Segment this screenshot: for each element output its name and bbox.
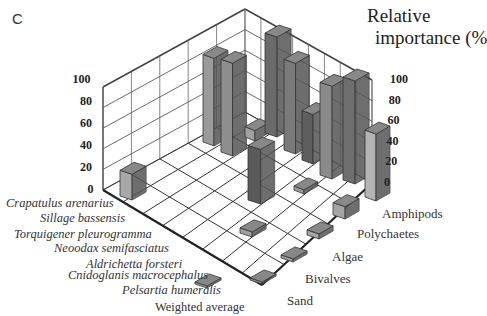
z-axis-title-line2: importance (%: [367, 27, 487, 49]
species-label: Sillage bassensis: [40, 211, 125, 226]
z-tick-right: 20: [385, 154, 397, 169]
z-tick-left: 60: [80, 116, 92, 131]
prey-label: Polychaetes: [357, 226, 419, 242]
bar: [221, 51, 247, 156]
bar: [333, 195, 359, 219]
prey-label: Amphipods: [382, 206, 443, 222]
z-tick-left: 40: [80, 138, 92, 153]
prey-label: Algae: [332, 249, 363, 265]
z-tick-left: 100: [73, 72, 91, 87]
z-axis-title: Relative importance (%: [367, 5, 487, 49]
z-axis-title-line1: Relative: [367, 5, 487, 27]
bar: [320, 74, 346, 179]
bar: [307, 222, 333, 239]
panel-letter: C: [12, 10, 23, 27]
species-label: Torquigener pleurogramma: [14, 227, 152, 242]
z-tick-right: 100: [390, 72, 408, 87]
species-label: Pelsartia humeralis: [122, 283, 221, 298]
z-tick-right: 80: [389, 93, 401, 108]
bar: [281, 247, 307, 262]
bar: [294, 178, 318, 194]
species-label: Crapatulus arenarius: [6, 196, 114, 211]
prey-label: Bivalves: [305, 271, 351, 287]
species-label: Weighted average: [155, 300, 245, 315]
z-tick-left: 20: [80, 160, 92, 175]
z-tick-right: 40: [386, 134, 398, 149]
bar: [248, 137, 275, 204]
z-tick-left: 80: [80, 94, 92, 109]
species-label: Neoodax semifasciatus: [54, 241, 169, 256]
bar: [240, 220, 266, 237]
z-tick-left: 0: [88, 182, 94, 197]
bar: [120, 162, 146, 200]
bar: [250, 270, 276, 284]
species-label: Cnidoglanis macrocephalus: [68, 268, 208, 283]
z-tick-right: 60: [388, 113, 400, 128]
z-tick-right: 0: [384, 175, 390, 190]
prey-label: Sand: [287, 293, 313, 309]
